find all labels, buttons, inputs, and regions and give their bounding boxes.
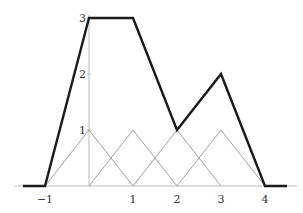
combined-curve [23,18,287,186]
x-tick-label: 2 [174,193,181,206]
y-tick-label: 1 [79,124,86,137]
combined-curve-line [23,18,287,186]
hat-function-line [89,130,177,186]
hat-function-line [133,130,221,186]
y-tick-label: 2 [79,68,86,81]
x-tick-label: 1 [130,193,137,206]
x-tick-label: 3 [218,193,225,206]
x-tick-label: 4 [262,193,269,206]
hat-functions [45,130,265,186]
y-tick-label: 3 [79,12,86,25]
plot-area: −11234123 [0,0,303,213]
x-tick-label: −1 [37,193,53,206]
hat-function-diagram: −11234123 [0,0,303,213]
hat-function-line [177,130,265,186]
